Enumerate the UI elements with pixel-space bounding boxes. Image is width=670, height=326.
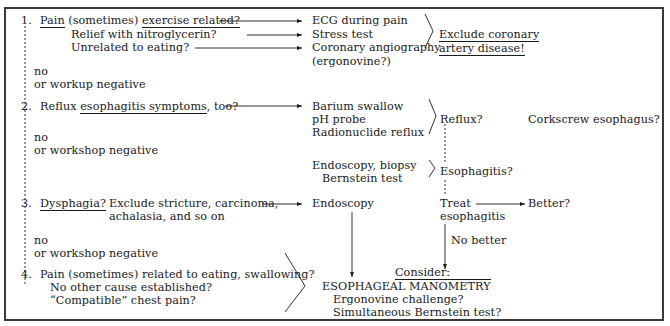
step2-prefix: Reflux xyxy=(40,100,80,113)
step3-desc-line2: achalasia, and so on xyxy=(109,210,225,223)
step2-test-ph: pH probe xyxy=(312,113,366,126)
step1-exercise-underlined: exercise related? xyxy=(142,14,240,28)
step3-treat: Treat xyxy=(440,197,471,210)
step2-corkscrew: Corkscrew esophagus? xyxy=(528,113,660,126)
step3-negative-label: or workshop negative xyxy=(34,247,158,260)
step4-manometry-a: ESOPHAGEAL xyxy=(322,280,409,293)
step4-consider-text: Consider: xyxy=(395,266,450,280)
step4-manometry: ESOPHAGEAL MANOMETRY xyxy=(322,280,491,293)
step2-result-esophagitis: Esophagitis? xyxy=(440,165,513,178)
step3-dysphagia-underlined: Dysphagia? xyxy=(40,197,106,211)
step3-desc-line1: Exclude stricture, carcinoma, xyxy=(109,197,278,210)
step4-consider: Consider: xyxy=(395,266,450,279)
step2-suffix: , too? xyxy=(207,100,238,113)
step1-test-angiography: Coronary angiography xyxy=(312,41,441,54)
step2-test-endoscopy-biopsy: Endoscopy, biopsy xyxy=(312,159,417,172)
step1-question-line1: Pain (sometimes) exercise related? xyxy=(40,14,240,27)
step3-better: Better? xyxy=(528,197,570,210)
step1-test-ergonovine: (ergonovine?) xyxy=(312,55,391,68)
step1-conclusion-text1: Exclude coronary xyxy=(439,28,539,42)
step1-test-ecg: ECG during pain xyxy=(312,14,408,27)
step4-line2: No other cause established? xyxy=(50,281,212,294)
step2-underlined: esophagitis symptoms xyxy=(80,100,207,114)
step1-question-line3: Unrelated to eating? xyxy=(71,41,189,54)
step2-result-reflux: Reflux? xyxy=(440,113,483,126)
step1-pain-underlined: Pain xyxy=(40,14,65,28)
step2-question: Reflux esophagitis symptoms, too? xyxy=(40,100,238,113)
step2-no-label: no xyxy=(34,131,48,144)
step4-number: 4. xyxy=(21,268,32,281)
step3-dysphagia: Dysphagia? xyxy=(40,197,106,210)
step1-pain-qualifier: (sometimes) xyxy=(65,14,142,27)
step1-conclusion-text2: artery disease! xyxy=(439,42,525,56)
step4-line1: Pain (sometimes) related to eating, swal… xyxy=(40,268,315,281)
step4-manometry-b: MANOMETRY xyxy=(409,279,491,293)
step2-test-bernstein: Bernstein test xyxy=(322,172,403,185)
step4-option-ergonovine: Ergonovine challenge? xyxy=(333,293,464,306)
step1-conclusion-line1: Exclude coronary xyxy=(439,28,539,41)
step4-option-bernstein: Simultaneous Bernstein test? xyxy=(333,306,501,319)
step3-no-label: no xyxy=(34,234,48,247)
step2-negative-label: or workshop negative xyxy=(34,144,158,157)
step1-question-line2: Relief with nitroglycerin? xyxy=(71,28,217,41)
step3-no-better: No better xyxy=(451,234,506,247)
step1-conclusion-line2: artery disease! xyxy=(439,42,525,55)
step3-treat-esophagitis: esophagitis xyxy=(440,210,505,223)
step4-line3: “Compatible” chest pain? xyxy=(50,294,196,307)
step2-test-radionuclide: Radionuclide reflux xyxy=(312,126,424,139)
step3-number: 3. xyxy=(21,197,32,210)
step2-test-barium: Barium swallow xyxy=(312,100,403,113)
step1-number: 1. xyxy=(21,14,32,27)
step1-no-label: no xyxy=(34,65,48,78)
step2-number: 2. xyxy=(21,100,32,113)
step1-test-stress: Stress test xyxy=(312,28,373,41)
step1-negative-label: or workup negative xyxy=(34,78,146,91)
step3-test-endoscopy: Endoscopy xyxy=(312,197,374,210)
